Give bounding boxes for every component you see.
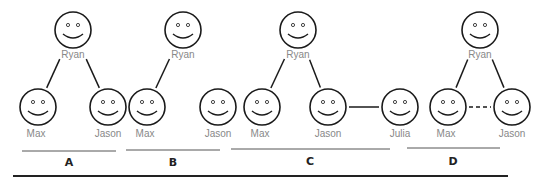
eye-icon [150, 100, 153, 103]
person-name: Jason [205, 128, 232, 139]
link-ryan-max [456, 60, 468, 88]
person-max: Max [129, 89, 165, 139]
eye-icon [505, 100, 508, 103]
eye-icon [176, 23, 179, 26]
eye-icon [221, 100, 224, 103]
person-jason: Jason [90, 89, 126, 139]
smiley-face-icon [310, 89, 346, 125]
panel-label: D [448, 155, 457, 168]
person-name: Ryan [171, 49, 194, 60]
person-name: Jason [95, 128, 122, 139]
eye-icon [473, 23, 476, 26]
person-max: Max [20, 89, 56, 139]
smiley-face-icon [244, 89, 280, 125]
person-name: Max [27, 128, 46, 139]
smiley-face-icon [430, 89, 466, 125]
person-name: Ryan [468, 49, 491, 60]
person-name: Ryan [286, 49, 309, 60]
smiley-face-icon [165, 12, 201, 48]
eye-icon [515, 100, 518, 103]
person-max: Max [430, 89, 466, 139]
eye-icon [111, 100, 114, 103]
smiley-face-icon [55, 12, 91, 48]
eye-icon [41, 100, 44, 103]
person-max: Max [244, 89, 280, 139]
person-ryan: Ryan [55, 12, 91, 60]
link-ryan-max [47, 59, 60, 88]
eye-icon [331, 100, 334, 103]
person-name: Jason [315, 128, 342, 139]
panel-c: RyanMaxJasonJuliaC [231, 12, 418, 168]
smiley-face-icon [129, 89, 165, 125]
smiley-face-icon [382, 89, 418, 125]
person-jason: Jason [200, 89, 236, 139]
person-ryan: Ryan [462, 12, 498, 60]
person-name: Max [251, 128, 270, 139]
link-ryan-max [271, 59, 285, 88]
smiley-face-icon [90, 89, 126, 125]
eye-icon [211, 100, 214, 103]
social-network-diagram: RyanMaxJasonARyanMaxJasonBRyanMaxJasonJu… [0, 0, 558, 180]
panel-label: B [169, 156, 177, 169]
smiley-face-icon [200, 89, 236, 125]
person-jason: Jason [494, 89, 530, 139]
eye-icon [451, 100, 454, 103]
eye-icon [265, 100, 268, 103]
eye-icon [321, 100, 324, 103]
panel-b: RyanMaxJasonB [126, 12, 236, 169]
eye-icon [301, 23, 304, 26]
person-jason: Jason [310, 89, 346, 139]
person-name: Julia [390, 128, 411, 139]
person-ryan: Ryan [280, 12, 316, 60]
eye-icon [291, 23, 294, 26]
person-name: Ryan [61, 49, 84, 60]
link-ryan-jason [310, 60, 321, 88]
person-julia: Julia [382, 89, 418, 139]
person-name: Max [136, 128, 155, 139]
link-ryan-max [156, 59, 170, 88]
smiley-face-icon [494, 89, 530, 125]
link-ryan-jason [492, 60, 504, 88]
eye-icon [483, 23, 486, 26]
person-name: Jason [499, 128, 526, 139]
eye-icon [393, 100, 396, 103]
smiley-face-icon [462, 12, 498, 48]
panel-label: A [65, 156, 74, 169]
smiley-face-icon [20, 89, 56, 125]
eye-icon [76, 23, 79, 26]
eye-icon [403, 100, 406, 103]
eye-icon [101, 100, 104, 103]
person-name: Max [437, 128, 456, 139]
eye-icon [186, 23, 189, 26]
panel-label: C [306, 155, 314, 168]
eye-icon [441, 100, 444, 103]
panel-a: RyanMaxJasonA [20, 12, 126, 169]
link-ryan-jason [86, 59, 99, 88]
eye-icon [140, 100, 143, 103]
eye-icon [66, 23, 69, 26]
panel-d: RyanMaxJasonD [407, 12, 530, 168]
eye-icon [255, 100, 258, 103]
eye-icon [31, 100, 34, 103]
person-ryan: Ryan [165, 12, 201, 60]
smiley-face-icon [280, 12, 316, 48]
